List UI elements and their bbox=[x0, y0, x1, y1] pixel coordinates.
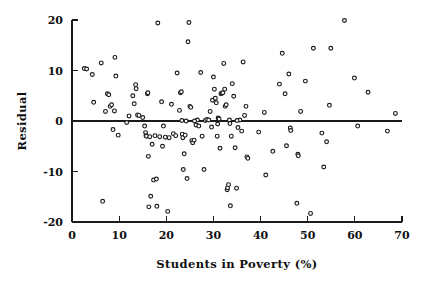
data-point bbox=[280, 51, 284, 55]
x-tick-label-0: 0 bbox=[68, 229, 76, 242]
data-point bbox=[150, 142, 154, 146]
x-tick-label-60: 60 bbox=[347, 229, 363, 242]
data-point bbox=[143, 124, 147, 128]
data-point bbox=[132, 102, 136, 106]
data-point bbox=[207, 118, 211, 122]
data-point bbox=[232, 94, 236, 98]
data-point bbox=[320, 131, 324, 135]
data-point bbox=[385, 129, 389, 133]
data-point bbox=[114, 74, 118, 78]
data-point bbox=[161, 144, 165, 148]
data-point bbox=[116, 133, 120, 137]
data-point bbox=[394, 112, 398, 116]
data-point bbox=[163, 135, 167, 139]
data-point bbox=[311, 46, 315, 50]
data-point bbox=[125, 121, 129, 125]
data-point bbox=[162, 124, 166, 128]
data-point bbox=[113, 55, 117, 59]
data-point bbox=[229, 134, 233, 138]
x-tick-label-40: 40 bbox=[253, 229, 269, 242]
data-point bbox=[218, 146, 222, 150]
data-point bbox=[180, 119, 184, 123]
data-point bbox=[227, 183, 231, 187]
data-point bbox=[325, 140, 329, 144]
data-point bbox=[185, 177, 189, 181]
data-point bbox=[111, 128, 115, 132]
data-point bbox=[356, 124, 360, 128]
data-point bbox=[228, 122, 232, 126]
data-point bbox=[222, 62, 226, 66]
data-point bbox=[149, 194, 153, 198]
data-point bbox=[181, 168, 185, 172]
data-point bbox=[214, 101, 218, 105]
data-point bbox=[134, 87, 138, 91]
data-point bbox=[230, 82, 234, 86]
data-point bbox=[85, 67, 89, 71]
data-point bbox=[235, 186, 239, 190]
data-point bbox=[110, 103, 114, 107]
x-tick-label-20: 20 bbox=[159, 229, 175, 242]
data-point bbox=[90, 73, 94, 77]
data-point bbox=[92, 100, 96, 104]
data-point bbox=[212, 87, 216, 91]
data-point bbox=[244, 104, 248, 108]
y-tick-label-20: 20 bbox=[48, 14, 64, 27]
data-point bbox=[199, 71, 203, 75]
data-point bbox=[224, 103, 228, 107]
data-point bbox=[183, 133, 187, 137]
data-point bbox=[104, 110, 108, 114]
data-point bbox=[328, 103, 332, 107]
data-point bbox=[174, 134, 178, 138]
y-tick-label-0: 0 bbox=[55, 115, 63, 128]
data-point bbox=[285, 144, 289, 148]
data-point bbox=[215, 134, 219, 138]
data-point bbox=[343, 19, 347, 23]
data-point bbox=[166, 209, 170, 213]
data-point bbox=[127, 114, 131, 118]
data-point bbox=[246, 156, 250, 160]
data-point bbox=[134, 83, 138, 87]
data-point bbox=[278, 82, 282, 86]
data-point bbox=[131, 94, 135, 98]
data-point bbox=[223, 87, 227, 91]
data-point bbox=[101, 199, 105, 203]
y-tick-label--10: -10 bbox=[43, 166, 63, 179]
data-point bbox=[184, 119, 188, 123]
data-point bbox=[137, 114, 141, 118]
data-point bbox=[155, 204, 159, 208]
data-point bbox=[189, 105, 193, 109]
data-point bbox=[146, 154, 150, 158]
data-point bbox=[217, 117, 221, 121]
x-tick-label-50: 50 bbox=[300, 229, 316, 242]
data-point bbox=[153, 134, 157, 138]
data-point bbox=[193, 119, 197, 123]
y-axis-tick-labels: -20-1001020 bbox=[43, 14, 63, 229]
x-tick-label-10: 10 bbox=[111, 229, 127, 242]
data-point bbox=[299, 110, 303, 114]
data-point bbox=[236, 126, 240, 130]
data-point bbox=[186, 40, 190, 44]
data-point bbox=[352, 76, 356, 80]
x-axis-ticks bbox=[72, 216, 402, 222]
data-point bbox=[303, 79, 307, 83]
y-tick-label-10: 10 bbox=[48, 65, 64, 78]
data-point bbox=[147, 205, 151, 209]
data-point bbox=[154, 177, 158, 181]
data-point bbox=[156, 21, 160, 25]
data-point bbox=[241, 60, 245, 64]
data-point bbox=[175, 71, 179, 75]
x-tick-label-30: 30 bbox=[206, 229, 222, 242]
data-point bbox=[107, 93, 111, 97]
data-point bbox=[233, 146, 237, 150]
x-axis-tick-labels: 010203040506070 bbox=[68, 229, 410, 242]
data-point bbox=[235, 119, 239, 123]
data-point bbox=[243, 114, 247, 118]
data-point bbox=[208, 110, 212, 114]
scatter-plot-figure: -20-1001020 010203040506070 Students in … bbox=[0, 0, 427, 282]
data-point bbox=[295, 201, 299, 205]
data-point bbox=[148, 135, 152, 139]
data-point bbox=[170, 102, 174, 106]
y-tick-label--20: -20 bbox=[43, 216, 63, 229]
data-point bbox=[192, 138, 196, 142]
data-point bbox=[158, 135, 162, 139]
